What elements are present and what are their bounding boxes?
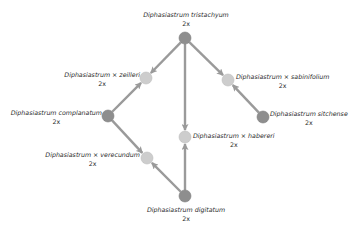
species-name: Diphasiastrum × sabinifolium bbox=[236, 72, 329, 81]
species-name: Diphasiastrum complanatum bbox=[11, 108, 102, 117]
label-sitchense: Diphasiastrum sitchense 2x bbox=[270, 109, 348, 127]
node-sabinifolium bbox=[222, 74, 234, 86]
ploidy-level: 2x bbox=[147, 214, 225, 223]
species-name: Diphasiastrum × habereri bbox=[193, 131, 275, 140]
species-name: Diphasiastrum tristachyum bbox=[143, 10, 229, 19]
ploidy-level: 2x bbox=[64, 79, 140, 88]
edge-tristachyum-to-sabinifolium bbox=[189, 42, 223, 75]
label-habereri: Diphasiastrum × habereri 2x bbox=[193, 131, 275, 149]
ploidy-level: 2x bbox=[270, 118, 348, 127]
label-tristachyum: Diphasiastrum tristachyum 2x bbox=[143, 10, 229, 28]
node-complanatum bbox=[102, 110, 114, 122]
node-sitchense bbox=[257, 111, 269, 123]
species-name: Diphasiastrum × zeilleri bbox=[64, 70, 140, 79]
label-sabinifolium: Diphasiastrum × sabinifolium 2x bbox=[236, 72, 329, 90]
ploidy-level: 2x bbox=[45, 159, 140, 168]
node-verecundum bbox=[141, 152, 153, 164]
edge-layer bbox=[112, 42, 259, 192]
ploidy-level: 2x bbox=[236, 81, 329, 90]
ploidy-level: 2x bbox=[193, 140, 275, 149]
ploidy-level: 2x bbox=[143, 19, 229, 28]
node-tristachyum bbox=[179, 32, 191, 44]
node-digitatum bbox=[179, 190, 191, 202]
edge-digitatum-to-verecundum bbox=[152, 163, 181, 192]
label-digitatum: Diphasiastrum digitatum 2x bbox=[147, 205, 225, 223]
label-zeilleri: Diphasiastrum × zeilleri 2x bbox=[64, 70, 140, 88]
ploidy-level: 2x bbox=[11, 117, 102, 126]
label-verecundum: Diphasiastrum × verecundum 2x bbox=[45, 150, 140, 168]
edge-tristachyum-to-zeilleri bbox=[151, 42, 181, 73]
species-name: Diphasiastrum sitchense bbox=[270, 109, 348, 118]
label-complanatum: Diphasiastrum complanatum 2x bbox=[11, 108, 102, 126]
species-name: Diphasiastrum digitatum bbox=[147, 205, 225, 214]
node-habereri bbox=[179, 131, 191, 143]
node-zeilleri bbox=[140, 72, 152, 84]
edge-complanatum-to-verecundum bbox=[112, 120, 142, 152]
species-name: Diphasiastrum × verecundum bbox=[45, 150, 140, 159]
